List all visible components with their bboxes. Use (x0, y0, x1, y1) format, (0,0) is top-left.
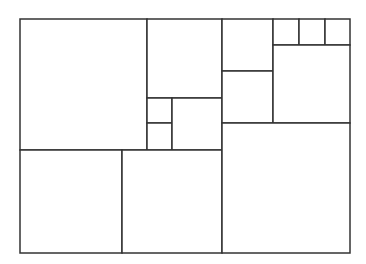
rectangle-r11 (273, 45, 350, 123)
rectangle-r13 (122, 150, 222, 253)
rectangle-r7 (222, 71, 273, 123)
rectangle-r6 (222, 19, 273, 71)
rectangle-r5 (172, 98, 222, 150)
rectangle-r1 (20, 19, 147, 150)
rectangle-r14 (222, 123, 350, 253)
rectangle-r2 (147, 19, 222, 98)
rectangle-r12 (20, 150, 122, 253)
rectangle-r3 (147, 98, 172, 123)
rectangle-r9 (299, 19, 325, 45)
rectangle-group (20, 19, 350, 253)
rectangle-r10 (325, 19, 350, 45)
rectangle-r4 (147, 123, 172, 150)
rectangle-subdivision-diagram (0, 0, 366, 264)
rectangle-r8 (273, 19, 299, 45)
